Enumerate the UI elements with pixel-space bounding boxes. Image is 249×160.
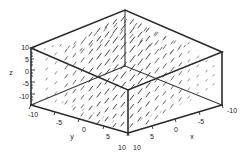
bounding-box-frame — [31, 10, 222, 133]
x-axis-title: x — [190, 133, 194, 140]
x-tick-label: -10 — [227, 107, 237, 114]
z-tick-label: 5 — [25, 56, 29, 63]
vector-glyph-group-mid-left — [65, 41, 84, 116]
y-tick-label: -5 — [56, 119, 62, 126]
x-axis-labels: 10 5 0 -5 -10 x — [133, 107, 237, 151]
z-axis-labels: 10 5 0 -5 -10 z — [9, 44, 29, 100]
box-top-face-edges — [31, 10, 222, 90]
z-tick-label: -5 — [23, 80, 29, 87]
plot-canvas: 10 5 0 -5 -10 z -10 -5 0 5 10 y 10 5 0 -… — [0, 0, 249, 160]
y-tick-label: 10 — [118, 144, 126, 151]
y-axis-tickmarks — [29, 105, 128, 136]
x-tick-label: -5 — [198, 118, 204, 125]
vector-field-3d-plot: 10 5 0 -5 -10 z -10 -5 0 5 10 y 10 5 0 -… — [0, 0, 249, 160]
box-bottom-front-left-edge — [31, 105, 128, 133]
z-axis-title: z — [9, 69, 13, 76]
z-tick-label: 10 — [21, 44, 29, 51]
y-axis-labels: -10 -5 0 5 10 y — [28, 111, 126, 151]
vector-glyph-group-mid-right — [155, 32, 182, 119]
vector-glyph-group-center — [89, 17, 150, 128]
x-tick-label: 5 — [150, 133, 154, 140]
z-tick-label: 0 — [25, 68, 29, 75]
vector-glyph-group-sparse-right — [188, 51, 214, 98]
z-tick-label: -10 — [19, 93, 29, 100]
x-tick-label: 10 — [133, 144, 141, 151]
x-tick-label: 0 — [174, 126, 178, 133]
y-tick-label: -10 — [28, 111, 38, 118]
y-axis-title: y — [70, 133, 74, 141]
y-tick-label: 0 — [82, 126, 86, 133]
box-bottom-back-left-edge — [31, 66, 125, 105]
y-tick-label: 5 — [106, 133, 110, 140]
